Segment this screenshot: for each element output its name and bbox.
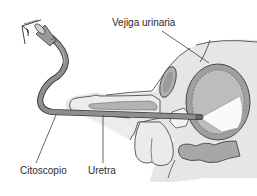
bladder [186,64,250,140]
label-bladder: Vejiga urinaria [112,18,175,28]
label-urethra: Uretra [88,166,116,176]
label-cystoscope: Citoscopio [20,166,67,176]
leader-cystoscope [36,115,56,163]
